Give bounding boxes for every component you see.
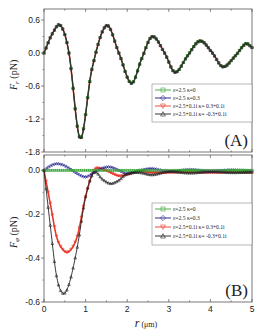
- legend-entry: ε=2.5 κ=0.3: [173, 215, 200, 221]
- x-tick-label: 0: [42, 304, 47, 314]
- panel-a-y-ticks: 0.60.0-0.6-1.2-1.8: [25, 15, 44, 157]
- legend-entry: ε=2.5+0.1i κ= -0.3+0.1i: [173, 233, 227, 239]
- y-tick-label: -0.6: [25, 297, 40, 307]
- panel-a: 0.60.0-0.6-1.2-1.8 Fr (pN) ε=2.5 κ=0ε=2.…: [8, 9, 253, 157]
- panel-a-label: (A): [224, 131, 248, 150]
- panel-b-y-axis-label: Fφ (pN): [8, 217, 21, 249]
- panel-b-y-ticks: 0.0-0.2-0.4-0.6: [25, 165, 44, 307]
- y-tick-label: -0.2: [25, 209, 40, 219]
- panel-a-legend: ε=2.5 κ=0ε=2.5 κ=0.3ε=2.5+0.1i κ= 0.3+0.…: [152, 84, 252, 122]
- y-tick-label: -1.2: [25, 114, 40, 124]
- x-tick-label: 3: [166, 304, 171, 314]
- legend-entry: ε=2.5+0.1i κ= 0.3+0.1i: [173, 224, 225, 230]
- legend-entry: ε=2.5 κ=0: [173, 206, 196, 212]
- y-tick-label: -0.4: [25, 253, 40, 263]
- legend-entry: ε=2.5+0.1i κ= 0.3+0.1i: [173, 103, 225, 109]
- x-tick-label: 2: [125, 304, 130, 314]
- y-tick-label: -0.6: [25, 81, 40, 91]
- legend-entry: ε=2.5 κ=0: [173, 87, 196, 93]
- panel-a-y-axis-label: Fr (pN): [8, 60, 21, 91]
- panel-b-label: (B): [225, 281, 248, 300]
- panel-a-plot-area: [44, 9, 252, 152]
- y-tick-label: -1.8: [25, 147, 40, 157]
- panel-b: 0.0-0.2-0.4-0.6 012345 Fφ (pN) ε=2.5 κ=0…: [8, 155, 255, 330]
- x-tick-label: 4: [208, 304, 213, 314]
- panel-b-legend: ε=2.5 κ=0ε=2.5 κ=0.3ε=2.5+0.1i κ= 0.3+0.…: [152, 203, 252, 245]
- x-tick-label: 5: [250, 304, 255, 314]
- x-tick-label: 1: [83, 304, 88, 314]
- y-tick-label: 0.0: [28, 48, 40, 58]
- legend-entry: ε=2.5 κ=0.3: [173, 95, 200, 101]
- legend-entry: ε=2.5+0.1i κ= -0.3+0.1i: [173, 111, 227, 117]
- chart-figure: 0.60.0-0.6-1.2-1.8 Fr (pN) ε=2.5 κ=0ε=2.…: [0, 0, 259, 333]
- x-axis-label: r (μm): [135, 316, 158, 330]
- y-tick-label: 0.6: [28, 15, 40, 25]
- y-tick-label: 0.0: [28, 165, 40, 175]
